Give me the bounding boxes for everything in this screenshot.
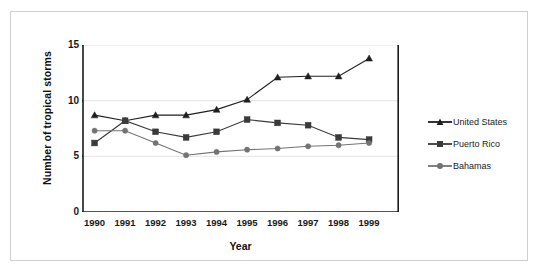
- series-puerto-rico: [92, 117, 372, 146]
- x-axis-tick-labels: 1990199119921993199419951996199719981999: [82, 217, 399, 231]
- y-axis-tick-labels: 051015: [51, 45, 79, 212]
- data-point: [153, 140, 158, 145]
- data-point: [275, 146, 280, 151]
- series-layer: [91, 55, 372, 158]
- chart-page: Number of tropical storms 051015 1990199…: [0, 0, 540, 273]
- data-point: [153, 129, 159, 135]
- data-point: [245, 147, 250, 152]
- series-united-states: [91, 55, 372, 123]
- legend-label: United States: [453, 117, 507, 128]
- series-bahamas: [92, 128, 372, 158]
- y-tick-label: 15: [53, 40, 79, 50]
- legend-label: Bahamas: [453, 161, 491, 172]
- data-point: [183, 135, 189, 141]
- chart-legend: United StatesPuerto RicoBahamas: [427, 111, 539, 177]
- y-tick-label: 5: [53, 151, 79, 161]
- legend-label: Puerto Rico: [453, 139, 500, 150]
- plot-svg: [82, 45, 399, 212]
- figure-frame: Number of tropical storms 051015 1990199…: [10, 11, 528, 261]
- data-point: [244, 96, 251, 102]
- data-point: [366, 55, 373, 61]
- data-point: [336, 143, 341, 148]
- data-point: [92, 128, 97, 133]
- legend-item-bahamas[interactable]: Bahamas: [427, 155, 539, 177]
- data-point: [306, 144, 311, 149]
- legend-item-puerto-rico[interactable]: Puerto Rico: [427, 133, 539, 155]
- data-point: [184, 153, 189, 158]
- legend-marker-square-icon: [427, 137, 453, 151]
- axis-lines: [83, 45, 399, 212]
- data-point: [123, 128, 128, 133]
- y-tick-label: 0: [53, 207, 79, 217]
- data-point: [92, 140, 98, 146]
- legend-marker-triangle-icon: [427, 115, 453, 129]
- y-tick-label: 10: [53, 96, 79, 106]
- x-tick-label: 1999: [349, 217, 389, 229]
- data-point: [214, 129, 220, 135]
- data-point: [244, 117, 250, 123]
- data-point: [336, 135, 342, 141]
- gridlines: [83, 45, 399, 156]
- legend-item-united-states[interactable]: United States: [427, 111, 539, 133]
- data-point: [214, 149, 219, 154]
- data-point: [91, 112, 98, 118]
- x-axis-title: Year: [82, 240, 399, 252]
- plot-area: [82, 45, 399, 212]
- data-point: [122, 118, 128, 124]
- data-point: [367, 140, 372, 145]
- data-point: [275, 120, 281, 126]
- data-point: [305, 122, 311, 128]
- legend-marker-circle-icon: [427, 159, 453, 173]
